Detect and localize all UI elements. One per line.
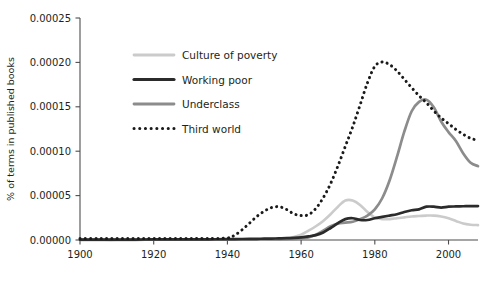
y-tick-label: 0.00025 xyxy=(30,13,71,24)
x-axis-ticks-group: 190019201940196019802000 xyxy=(67,240,461,260)
series-line-underclass xyxy=(80,99,478,239)
legend-label-culture-of-poverty: Culture of poverty xyxy=(182,49,277,61)
x-tick-label: 1940 xyxy=(215,249,240,260)
y-tick-label: 0.00010 xyxy=(30,146,71,157)
x-tick-label: 1980 xyxy=(362,249,387,260)
y-axis-title: % of terms in published books xyxy=(5,57,16,201)
legend-group: Culture of povertyWorking poorUnderclass… xyxy=(134,49,277,135)
y-tick-label: 0.00015 xyxy=(30,101,71,112)
x-tick-label: 1900 xyxy=(67,249,92,260)
series-line-working-poor xyxy=(80,206,478,240)
x-tick-label: 1920 xyxy=(141,249,166,260)
y-tick-label: 0.00020 xyxy=(30,57,71,68)
line-chart: % of terms in published books 0.000000.0… xyxy=(0,0,482,285)
chart-container: % of terms in published books 0.000000.0… xyxy=(0,0,482,285)
legend-label-working-poor: Working poor xyxy=(182,74,253,86)
y-axis-label-group: % of terms in published books xyxy=(5,57,16,201)
series-line-third-world xyxy=(80,62,478,239)
legend-label-third-world: Third world xyxy=(181,123,241,135)
data-series-group xyxy=(80,62,478,240)
y-tick-label: 0.00005 xyxy=(30,190,71,201)
y-tick-label: 0.00000 xyxy=(30,235,71,246)
series-line-culture-of-poverty xyxy=(80,200,478,240)
y-axis-ticks-group: 0.000000.000050.000100.000150.000200.000… xyxy=(30,13,80,246)
legend-label-underclass: Underclass xyxy=(182,98,240,110)
x-tick-label: 2000 xyxy=(436,249,461,260)
x-tick-label: 1960 xyxy=(288,249,313,260)
